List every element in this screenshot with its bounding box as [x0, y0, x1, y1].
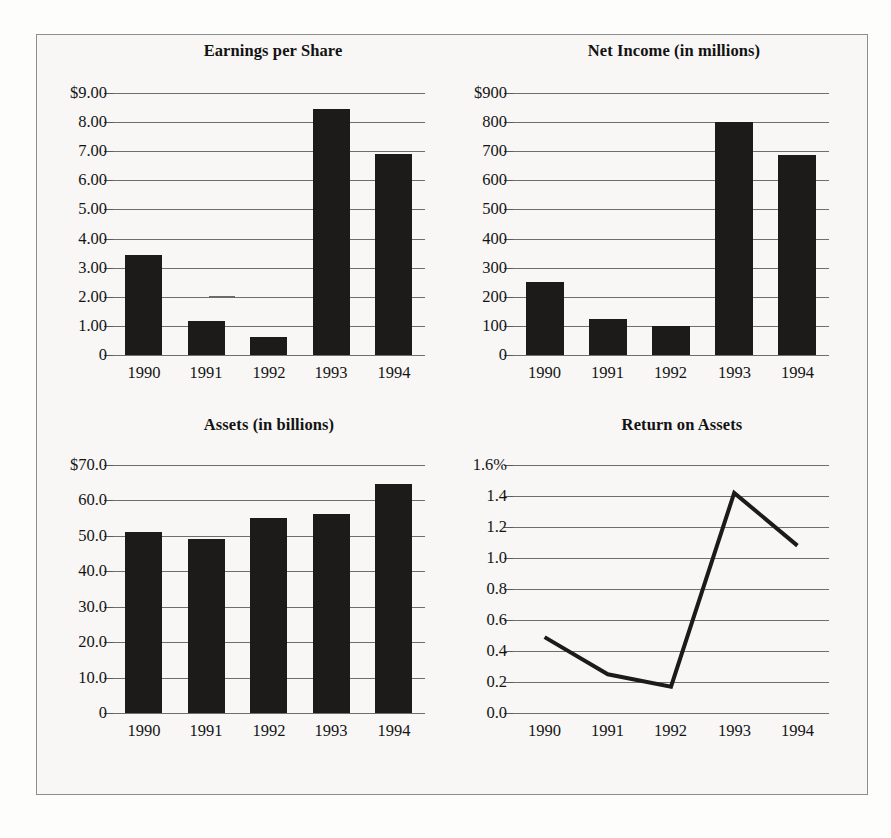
line-path [545, 493, 798, 687]
y-tick-label: $900 [474, 83, 507, 103]
y-tick-label: 50.0 [78, 526, 107, 546]
x-tick-label: 1990 [113, 721, 175, 741]
y-tick-label: 6.00 [78, 170, 107, 190]
x-tick-label: 1994 [363, 721, 425, 741]
y-tick-label: 0 [99, 345, 107, 365]
y-tick-label: 0 [99, 703, 107, 723]
y-tick-label: 1.00 [78, 316, 107, 336]
bar-1990 [526, 282, 564, 355]
plot-area-return-on-assets [513, 465, 829, 713]
x-tick-label: 1991 [576, 721, 639, 741]
bar-1992 [652, 326, 690, 355]
x-tick-label: 1990 [513, 721, 576, 741]
y-tick-label: 3.00 [78, 258, 107, 278]
plot-area-earnings-per-share [113, 93, 425, 355]
x-tick-label: 1993 [300, 721, 362, 741]
bar-1993 [313, 109, 350, 355]
chart-panel-net-income: Net Income (in millions) 010020030040050… [451, 41, 861, 413]
gridline [113, 122, 425, 123]
x-tick-label: 1993 [703, 363, 766, 383]
y-tick-label: 1.4 [486, 486, 507, 506]
chart-title-net-income: Net Income (in millions) [451, 41, 879, 61]
y-tick-label: $70.0 [70, 455, 107, 475]
chart-title-earnings-per-share: Earnings per Share [45, 41, 475, 61]
bar-1991 [188, 539, 225, 713]
x-tick-label: 1991 [576, 363, 639, 383]
gridline [113, 713, 425, 714]
bar-1994 [778, 155, 816, 355]
x-tick-label: 1994 [766, 363, 829, 383]
x-tick-label: 1990 [113, 363, 175, 383]
x-tick-label: 1992 [238, 363, 300, 383]
y-tick-label: 1.2 [486, 517, 507, 537]
bar-1990 [125, 255, 162, 355]
page-canvas: Earnings per Share 01.002.003.004.005.00… [0, 0, 891, 838]
bar-1993 [313, 514, 350, 713]
y-tick-label: 7.00 [78, 141, 107, 161]
gridline [513, 93, 829, 94]
x-tick-label: 1994 [363, 363, 425, 383]
x-tick-label: 1991 [175, 721, 237, 741]
gridline [113, 93, 425, 94]
chart-panel-return-on-assets: Return on Assets 0.00.20.40.60.81.01.21.… [451, 415, 861, 790]
y-axis-net-income: 0100200300400500600700800$900 [451, 93, 507, 355]
y-tick-label: 8.00 [78, 112, 107, 132]
figure-frame: Earnings per Share 01.002.003.004.005.00… [36, 34, 868, 795]
y-tick-label: 700 [482, 141, 507, 161]
line-series-return-on-assets [513, 465, 829, 713]
y-tick-label: 0.0 [486, 703, 507, 723]
y-tick-label: 2.00 [78, 287, 107, 307]
y-tick-label: 0.4 [486, 641, 507, 661]
y-tick-label: $9.00 [70, 83, 107, 103]
x-axis-assets: 19901991199219931994 [113, 721, 425, 747]
bar-1994 [375, 484, 412, 713]
x-axis-return-on-assets: 19901991199219931994 [513, 721, 829, 747]
gridline [513, 713, 829, 714]
y-tick-label: 200 [482, 287, 507, 307]
gridline [513, 355, 829, 356]
x-tick-label: 1993 [703, 721, 766, 741]
x-tick-label: 1994 [766, 721, 829, 741]
plot-area-net-income [513, 93, 829, 355]
bar-1992 [250, 337, 287, 355]
y-tick-label: 300 [482, 258, 507, 278]
x-tick-label: 1992 [238, 721, 300, 741]
bar-1991 [589, 319, 627, 355]
gridline [113, 465, 425, 466]
y-axis-assets: 010.020.030.040.050.060.0$70.0 [45, 465, 107, 713]
chart-panel-earnings-per-share: Earnings per Share 01.002.003.004.005.00… [45, 41, 449, 413]
y-tick-label: 800 [482, 112, 507, 132]
y-tick-label: 1.0 [486, 548, 507, 568]
y-tick-label: 60.0 [78, 490, 107, 510]
bar-1990 [125, 532, 162, 713]
bar-1991 [188, 321, 225, 355]
y-tick-label: 400 [482, 229, 507, 249]
gridline [113, 355, 425, 356]
x-tick-label: 1992 [639, 721, 702, 741]
y-tick-label: 0.6 [486, 610, 507, 630]
y-tick-label: 10.0 [78, 668, 107, 688]
y-tick-label: 30.0 [78, 597, 107, 617]
gridline [513, 151, 829, 152]
bar-1994 [375, 154, 412, 355]
y-tick-label: 40.0 [78, 561, 107, 581]
scan-artifact-mark [209, 296, 235, 298]
x-tick-label: 1991 [175, 363, 237, 383]
y-tick-label: 0.8 [486, 579, 507, 599]
bar-1993 [715, 122, 753, 355]
y-axis-earnings-per-share: 01.002.003.004.005.006.007.008.00$9.00 [45, 93, 107, 355]
plot-area-assets [113, 465, 425, 713]
gridline [113, 151, 425, 152]
y-tick-label: 4.00 [78, 229, 107, 249]
chart-title-assets: Assets (in billions) [45, 415, 471, 435]
y-tick-label: 100 [482, 316, 507, 336]
chart-title-return-on-assets: Return on Assets [451, 415, 887, 435]
x-tick-label: 1992 [639, 363, 702, 383]
y-tick-label: 20.0 [78, 632, 107, 652]
x-tick-label: 1993 [300, 363, 362, 383]
y-axis-return-on-assets: 0.00.20.40.60.81.01.21.41.6% [451, 465, 507, 713]
x-axis-earnings-per-share: 19901991199219931994 [113, 363, 425, 389]
gridline [513, 122, 829, 123]
bar-1992 [250, 518, 287, 713]
y-tick-label: 1.6% [473, 455, 507, 475]
